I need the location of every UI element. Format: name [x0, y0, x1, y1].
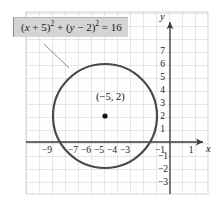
- x-tick-label: −6: [81, 145, 91, 155]
- y-tick-label: 7: [160, 46, 165, 56]
- x-tick-label: −9: [42, 145, 52, 155]
- y-tick-label: 1: [160, 124, 165, 134]
- y-tick-label: −1: [158, 151, 168, 161]
- center-point-dot: [102, 113, 107, 118]
- x-tick-label: −3: [120, 145, 130, 155]
- y-tick-label: 3: [160, 98, 165, 108]
- x-tick-label: 1: [189, 145, 194, 155]
- y-tick-label: −3: [158, 177, 168, 187]
- x-axis-label: x: [205, 143, 211, 154]
- x-tick-label: −4: [107, 145, 117, 155]
- y-axis-label: y: [159, 11, 165, 22]
- y-tick-label: 4: [160, 85, 165, 95]
- equation-text: (x + 5)2 + (y − 2)2 = 16: [21, 21, 122, 33]
- y-tick-label: 6: [160, 59, 165, 69]
- y-tick-label: 5: [160, 72, 165, 82]
- equation-label: (x + 5)2 + (y − 2)2 = 16: [13, 17, 128, 37]
- x-tick-label: −5: [94, 145, 104, 155]
- y-tick-label: −2: [158, 164, 168, 174]
- circle-graph-figure: x y −9 −7 −6 −5 −4 −3 −1 1 7 6 5 4 3 2 1…: [0, 0, 224, 201]
- center-point-label: (−5, 2): [96, 91, 125, 102]
- y-tick-label: 2: [160, 111, 165, 121]
